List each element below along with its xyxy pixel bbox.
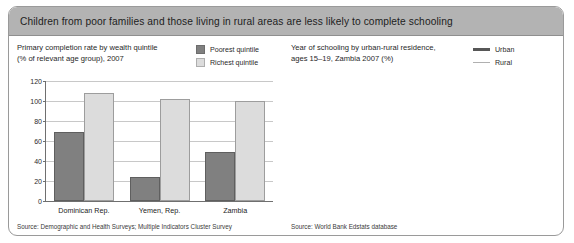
legend-label-richest: Richest quintile	[210, 59, 258, 67]
legend-label-rural: Rural	[495, 59, 512, 67]
legend-swatch-icon	[196, 45, 205, 54]
charts-row: Primary completion rate by wealth quinti…	[9, 36, 563, 235]
y-tick-label: 120	[30, 78, 42, 85]
category-label: Zambia	[223, 206, 247, 215]
y-tick-mark	[43, 121, 46, 122]
legend-item-rural: Rural	[473, 57, 514, 68]
legend-item-richest: Richest quintile	[196, 57, 259, 68]
legend-label-poorest: Poorest quintile	[210, 46, 259, 54]
y-tick-label: 20	[34, 178, 42, 185]
bar-poorest	[54, 132, 84, 201]
gridline	[46, 81, 273, 82]
bar-richest	[160, 99, 190, 201]
bar-chart-plot-area: 020406080100120Dominican Rep.Yemen, Rep.…	[45, 81, 273, 202]
bar-chart-title-line1: Primary completion rate by wealth quinti…	[17, 43, 192, 54]
y-tick-label: 0	[38, 198, 42, 205]
bar-richest	[235, 101, 265, 201]
legend-swatch-icon	[196, 58, 205, 67]
category-label: Dominican Rep.	[58, 206, 109, 215]
bar-chart-panel: Primary completion rate by wealth quinti…	[9, 36, 283, 235]
y-tick-label: 60	[34, 138, 42, 145]
y-tick-mark	[43, 181, 46, 182]
line-chart-legend: Urban Rural	[473, 44, 514, 70]
y-tick-mark	[43, 161, 46, 162]
legend-label-urban: Urban	[495, 46, 514, 54]
bar-chart-source: Source: Demographic and Health Surveys; …	[17, 223, 232, 230]
legend-item-urban: Urban	[473, 44, 514, 55]
y-tick-label: 100	[30, 98, 42, 105]
bar-poorest	[130, 177, 160, 201]
line-chart-title-line1: Year of schooling by urban-rural residen…	[291, 43, 466, 54]
legend-line-icon	[473, 62, 490, 64]
figure-header-title: Children from poor families and those li…	[20, 16, 453, 27]
y-tick-mark	[43, 101, 46, 102]
bar-chart-title: Primary completion rate by wealth quinti…	[17, 43, 192, 64]
bar-chart-title-line2: (% of relevant age group), 2007	[17, 54, 192, 65]
figure-container: Children from poor families and those li…	[8, 6, 564, 236]
legend-item-poorest: Poorest quintile	[196, 44, 259, 55]
line-chart-source: Source: World Bank Edstats database	[291, 223, 397, 230]
y-tick-mark	[43, 81, 46, 82]
y-tick-label: 40	[34, 158, 42, 165]
y-tick-label: 80	[34, 118, 42, 125]
line-chart-title-line2: ages 15–19, Zambia 2007 (%)	[291, 54, 466, 65]
bar-chart-legend: Poorest quintile Richest quintile	[196, 44, 259, 70]
bar-poorest	[205, 152, 235, 201]
line-chart-title: Year of schooling by urban-rural residen…	[291, 43, 466, 64]
line-chart-panel: Year of schooling by urban-rural residen…	[283, 36, 563, 235]
y-tick-mark	[43, 141, 46, 142]
category-label: Yemen, Rep.	[139, 206, 180, 215]
legend-line-icon	[473, 48, 490, 50]
y-tick-mark	[43, 201, 46, 202]
bar-richest	[84, 93, 114, 201]
figure-header: Children from poor families and those li…	[9, 7, 563, 36]
